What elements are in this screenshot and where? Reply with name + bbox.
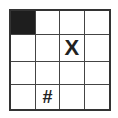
cell-r0-c1[interactable] — [36, 11, 61, 35]
cell-r3-c1-hash-mark[interactable]: # — [36, 85, 61, 109]
cell-r3-c3[interactable] — [85, 85, 110, 109]
cell-r2-c0[interactable] — [11, 62, 36, 86]
cell-r1-c3[interactable] — [85, 35, 110, 62]
cell-r3-c2[interactable] — [60, 85, 85, 109]
cell-r2-c2[interactable] — [60, 62, 85, 86]
cell-r1-c2-x-mark[interactable]: X — [60, 35, 85, 62]
cell-r1-c0[interactable] — [11, 35, 36, 62]
cell-r0-c0-filled[interactable] — [11, 11, 36, 35]
cell-r1-c1[interactable] — [36, 35, 61, 62]
cell-r0-c2[interactable] — [60, 11, 85, 35]
cell-r0-c3[interactable] — [85, 11, 110, 35]
puzzle-grid: X # — [9, 9, 111, 111]
cell-r2-c1[interactable] — [36, 62, 61, 86]
cell-r2-c3[interactable] — [85, 62, 110, 86]
cell-r3-c0[interactable] — [11, 85, 36, 109]
